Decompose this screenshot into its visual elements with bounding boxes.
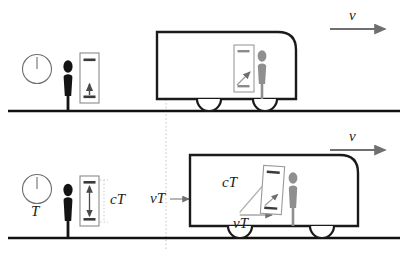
diagram-canvas	[0, 0, 408, 258]
train-car-top	[157, 32, 296, 111]
relativity-light-clock-diagram: v v T cT vT cT vT	[0, 0, 408, 258]
clock-face-bottom	[23, 175, 52, 204]
light-path-rest-label: cT	[110, 192, 125, 207]
light-clock-rest-top	[80, 53, 99, 103]
velocity-label-top: v	[349, 8, 356, 23]
clock-face-top	[23, 55, 52, 84]
velocity-label-bottom: v	[349, 129, 356, 144]
ct-measure-bracket	[100, 180, 108, 222]
person-figure-ground-bottom	[63, 184, 72, 238]
light-path-moving-label: cT	[222, 175, 237, 190]
train-displacement-outside-label: vT	[150, 191, 165, 206]
light-clock-train-bottom	[260, 165, 284, 214]
period-label: T	[31, 204, 39, 219]
person-figure-ground-top	[63, 60, 72, 111]
light-clock-rest-bottom	[80, 176, 99, 226]
train-displacement-inside-label: vT	[233, 216, 248, 231]
light-clock-train-top	[234, 45, 254, 92]
